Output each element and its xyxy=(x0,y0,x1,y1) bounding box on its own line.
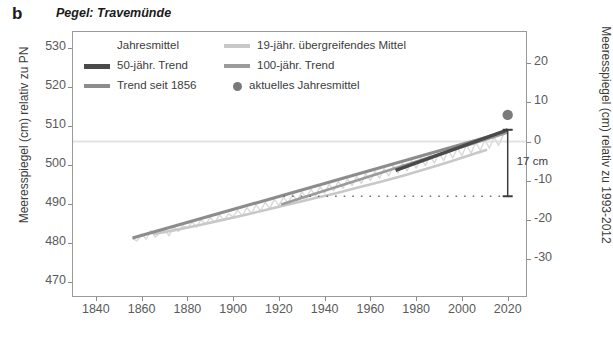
legend-swatch-line-icon xyxy=(84,84,110,88)
series-trend-seit-1856 xyxy=(132,131,507,238)
legend-label: Jahresmittel xyxy=(117,40,179,52)
y-right-tick-mark xyxy=(527,220,531,221)
x-tick-mark xyxy=(370,297,371,301)
y-left-tick-label: 530 xyxy=(20,39,66,53)
x-tick-mark xyxy=(325,297,326,301)
y-right-tick-label: 0 xyxy=(534,133,580,147)
y-left-tick-mark xyxy=(68,48,72,49)
legend-label: 19-jähr. übergreifendes Mittel xyxy=(257,40,406,52)
y-right-tick-label: -10 xyxy=(534,172,580,186)
y-left-tick-mark xyxy=(68,282,72,283)
legend-item-trend-seit-1856: Trend seit 1856 xyxy=(84,80,224,92)
current-annual-mean-dot xyxy=(502,110,512,120)
y-right-tick-label: 20 xyxy=(534,54,580,68)
legend-row: Jahresmittel 19-jähr. übergreifendes Mit… xyxy=(84,36,444,56)
y-left-tick-label: 470 xyxy=(20,273,66,287)
chart-legend: Jahresmittel 19-jähr. übergreifendes Mit… xyxy=(84,36,444,96)
y-left-tick-mark xyxy=(68,165,72,166)
legend-row: 50-jähr. Trend 100-jähr. Trend xyxy=(84,56,444,76)
y-left-tick-label: 520 xyxy=(20,78,66,92)
y-left-tick-label: 500 xyxy=(20,156,66,170)
y-left-tick-mark xyxy=(68,87,72,88)
legend-swatch-line-icon xyxy=(224,44,250,48)
legend-row: Trend seit 1856 aktuelles Jahresmittel xyxy=(84,76,444,96)
y-right-tick-label: -20 xyxy=(534,211,580,225)
legend-swatch-dot-icon xyxy=(233,82,242,91)
chart-root: b Pegel: Travemünde Meeresspiegel (cm) r… xyxy=(0,0,613,342)
y-right-tick-mark xyxy=(527,259,531,260)
chart-title: Pegel: Travemünde xyxy=(56,6,171,20)
legend-swatch-line-icon xyxy=(84,64,110,69)
y-right-tick-mark xyxy=(527,181,531,182)
legend-swatch-line-icon xyxy=(224,64,250,68)
legend-item-19jahr-mittel: 19-jähr. übergreifendes Mittel xyxy=(224,40,406,52)
x-tick-mark xyxy=(279,297,280,301)
x-tick-mark xyxy=(508,297,509,301)
x-tick-label: 2020 xyxy=(478,302,538,316)
y-left-tick-mark xyxy=(68,243,72,244)
x-tick-mark xyxy=(96,297,97,301)
y-right-tick-label: 10 xyxy=(534,93,580,107)
legend-label: aktuelles Jahresmittel xyxy=(249,80,360,92)
legend-item-jahresmittel: Jahresmittel xyxy=(84,40,224,52)
x-tick-mark xyxy=(142,297,143,301)
y-right-tick-mark xyxy=(527,142,531,143)
legend-label: Trend seit 1856 xyxy=(117,80,196,92)
y-right-tick-label: -30 xyxy=(534,250,580,264)
bracket-annotation-label: 17 cm xyxy=(517,155,548,167)
y-left-tick-label: 490 xyxy=(20,195,66,209)
x-tick-mark xyxy=(416,297,417,301)
y-left-tick-mark xyxy=(68,204,72,205)
y-left-tick-label: 510 xyxy=(20,117,66,131)
y-right-tick-mark xyxy=(527,63,531,64)
x-tick-mark xyxy=(233,297,234,301)
legend-item-100jahr-trend: 100-jähr. Trend xyxy=(224,60,334,72)
y-axis-right-title: Meeresspiegel (cm) relativ zu 1993-2012 xyxy=(599,0,613,280)
legend-swatch-blank-icon xyxy=(84,44,110,48)
y-left-tick-label: 480 xyxy=(20,234,66,248)
legend-item-50jahr-trend: 50-jähr. Trend xyxy=(84,60,224,72)
legend-item-aktuelles-jahresmittel: aktuelles Jahresmittel xyxy=(224,80,360,92)
series-50jahr-trend xyxy=(396,130,508,171)
legend-label: 50-jähr. Trend xyxy=(117,60,188,72)
y-right-tick-mark xyxy=(527,102,531,103)
legend-label: 100-jähr. Trend xyxy=(257,60,334,72)
x-tick-mark xyxy=(187,297,188,301)
y-left-tick-mark xyxy=(68,126,72,127)
x-tick-mark xyxy=(462,297,463,301)
